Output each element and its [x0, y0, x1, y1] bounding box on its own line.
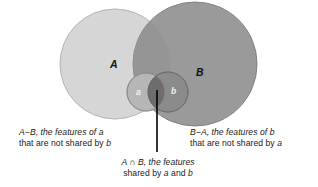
caption-bottom-and: and — [169, 168, 188, 178]
caption-a-intersect-b: A ∩ B, the features shared by a and b — [82, 157, 234, 179]
venn-diagram-figure: A B a b A−B, the features of a that are … — [0, 0, 318, 187]
subset-b-label: b — [171, 86, 176, 96]
caption-right-symbol-a: A, the features of — [201, 127, 270, 137]
caption-a-minus-b: A−B, the features of a that are not shar… — [19, 127, 111, 149]
caption-a-minus-b-line1: A−B, the features of a — [19, 127, 111, 138]
caption-b-minus-a: B−A, the features of b that are not shar… — [190, 127, 282, 149]
caption-bottom-line2-text: shared by — [123, 168, 164, 178]
caption-left-italic-a: a — [99, 127, 104, 137]
caption-left-italic-b: b — [106, 138, 111, 148]
subset-a-label: a — [136, 87, 141, 97]
caption-a-minus-b-line2: that are not shared by b — [19, 138, 111, 149]
caption-right-italic-a: a — [277, 138, 282, 148]
caption-right-italic-b: b — [270, 127, 275, 137]
caption-left-line2-text: that are not shared by — [19, 138, 106, 148]
caption-a-intersect-b-line2: shared by a and b — [82, 168, 234, 179]
caption-bottom-symbol-b: B, the features — [136, 157, 195, 167]
caption-b-minus-a-line1: B−A, the features of b — [190, 127, 282, 138]
set-b-label: B — [196, 66, 204, 78]
caption-right-line2-text: that are not shared by — [190, 138, 277, 148]
caption-left-symbol-b: B, the features of — [30, 127, 99, 137]
caption-a-intersect-b-line1: A ∩ B, the features — [82, 157, 234, 168]
caption-b-minus-a-line2: that are not shared by a — [190, 138, 282, 149]
caption-bottom-italic-b: b — [188, 168, 193, 178]
set-a-label: A — [110, 58, 118, 70]
